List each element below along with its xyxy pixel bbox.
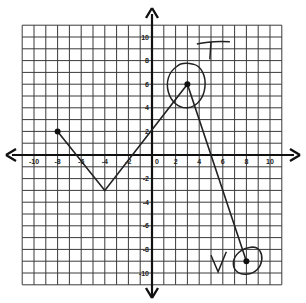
x-tick-label: 2 bbox=[174, 158, 178, 165]
coordinate-plane: -10-8-6-4-20246810-10-8-6-4-2246810 bbox=[0, 0, 306, 303]
y-tick-label: -6 bbox=[143, 222, 149, 229]
y-tick-label: -10 bbox=[139, 270, 149, 277]
y-tick-label: 10 bbox=[141, 34, 149, 41]
x-tick-label: 8 bbox=[244, 158, 248, 165]
endpoint-dot bbox=[184, 81, 190, 87]
handwritten-letter-t bbox=[197, 41, 230, 59]
pencil-mark bbox=[187, 151, 188, 152]
endpoint-dot bbox=[55, 128, 61, 134]
x-tick-label: -8 bbox=[54, 158, 60, 165]
y-tick-label: 4 bbox=[145, 104, 149, 111]
graph-svg: -10-8-6-4-20246810-10-8-6-4-2246810 bbox=[0, 0, 306, 303]
endpoint-dot bbox=[243, 258, 249, 264]
x-tick-label: 10 bbox=[266, 158, 274, 165]
pencil-mark bbox=[187, 127, 188, 128]
x-tick-label: 4 bbox=[197, 158, 201, 165]
y-tick-label: 8 bbox=[145, 57, 149, 64]
y-tick-label: -2 bbox=[143, 175, 149, 182]
x-tick-label: 0 bbox=[155, 158, 159, 165]
x-tick-label: -10 bbox=[29, 158, 39, 165]
x-tick-label: -4 bbox=[102, 158, 108, 165]
y-tick-label: -4 bbox=[143, 199, 149, 206]
x-tick-label: 6 bbox=[221, 158, 225, 165]
y-tick-label: 6 bbox=[145, 81, 149, 88]
handwritten-letter-v bbox=[211, 252, 226, 272]
y-tick-label: -8 bbox=[143, 246, 149, 253]
